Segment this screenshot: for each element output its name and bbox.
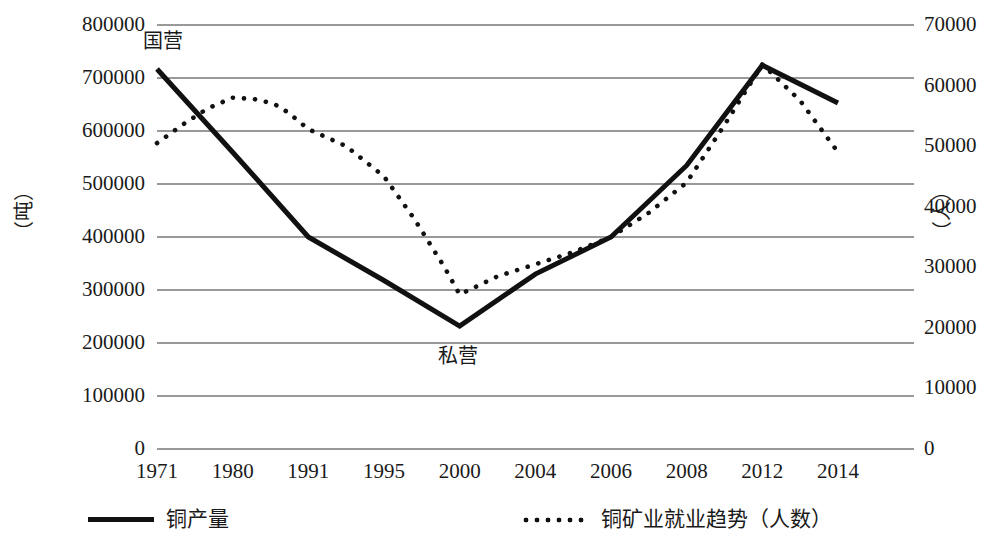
legend-solid-line-icon <box>88 517 154 522</box>
y-axis-right-tick-label: 70000 <box>924 14 981 35</box>
y-axis-right-tick-label: 50000 <box>924 135 981 156</box>
chart-annotation-label: 私营 <box>438 346 478 366</box>
legend-item[interactable]: 铜矿业就业趋势（人数） <box>523 509 832 530</box>
y-axis-left-tick-label: 300000 <box>0 279 145 300</box>
chart-annotation-label: 国营 <box>143 31 183 51</box>
y-axis-left-tick-label: 600000 <box>0 120 145 141</box>
legend-item[interactable]: 铜产量 <box>88 509 229 530</box>
y-axis-left-tick-label: 400000 <box>0 226 145 247</box>
series-line-copper-production <box>157 65 838 326</box>
legend-item-label: 铜矿业就业趋势（人数） <box>601 509 832 530</box>
legend-item-label: 铜产量 <box>166 509 229 530</box>
y-axis-left-tick-label: 500000 <box>0 173 145 194</box>
y-axis-right-tick-label: 40000 <box>924 196 981 217</box>
y-axis-right-tick-label: 0 <box>924 438 981 459</box>
data-series-layer <box>157 64 838 326</box>
y-axis-right-tick-label: 20000 <box>924 317 981 338</box>
y-axis-right-tick-label: 10000 <box>924 377 981 398</box>
x-axis-tick-label: 2014 <box>793 461 883 482</box>
y-axis-left-tick-label: 700000 <box>0 67 145 88</box>
gridlines <box>157 25 914 449</box>
y-axis-right-tick-label: 60000 <box>924 75 981 96</box>
y-axis-left-tick-label: 800000 <box>0 14 145 35</box>
y-axis-left-tick-label: 100000 <box>0 385 145 406</box>
y-axis-left-tick-label: 200000 <box>0 332 145 353</box>
y-axis-left-tick-label: 0 <box>0 438 145 459</box>
y-axis-right-tick-label: 30000 <box>924 256 981 277</box>
legend-dotted-line-icon <box>523 517 589 523</box>
